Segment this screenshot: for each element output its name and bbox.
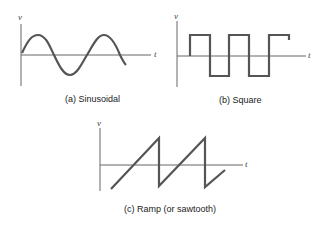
sinusoidal-x-label: t <box>154 49 157 59</box>
square-x-label: t <box>308 50 311 60</box>
ramp-x-label: t <box>245 159 248 169</box>
panel-ramp <box>100 128 243 191</box>
ramp-y-label: v <box>97 118 101 128</box>
square-y-label: v <box>174 11 178 21</box>
panel-square <box>177 21 306 87</box>
caption-ramp: (c) Ramp (or sawtooth) <box>124 204 216 214</box>
caption-sinusoidal: (a) Sinusoidal <box>65 94 120 104</box>
ramp-wave <box>111 138 225 189</box>
waveform-diagrams <box>0 0 327 233</box>
caption-square: (b) Square <box>219 95 262 105</box>
sinusoidal-y-label: v <box>18 12 22 22</box>
panel-sinusoidal <box>21 24 151 86</box>
